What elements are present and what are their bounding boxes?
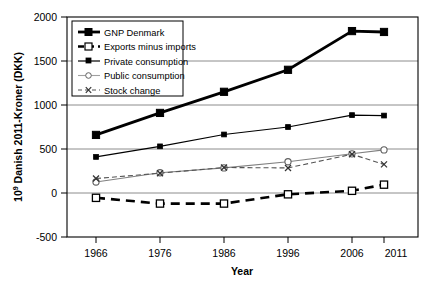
y-tick-label: 1000 <box>34 99 58 111</box>
x-tick-label: 2006 <box>340 247 364 259</box>
data-point-marker <box>348 27 355 34</box>
data-point-marker <box>222 132 227 137</box>
legend-label-stock-change: Stock change <box>104 86 160 96</box>
data-point-marker <box>158 144 163 149</box>
data-point-marker <box>94 155 99 160</box>
filled-dot-icon <box>86 58 91 63</box>
data-point-marker <box>284 191 291 198</box>
x-axis-tick-labels: 1966 1976 1986 1996 2006 2011 <box>84 247 407 259</box>
data-point-marker <box>92 131 99 138</box>
legend-label-private-consumption: Private consumption <box>104 57 188 67</box>
data-point-marker <box>284 66 291 73</box>
y-tick-label: -500 <box>36 231 57 243</box>
data-point-marker <box>92 194 99 201</box>
x-tick-label: 2011 <box>385 247 408 259</box>
open-square-icon <box>85 43 92 50</box>
y-tick-label: 0 <box>51 187 57 199</box>
open-circle-icon <box>86 73 92 79</box>
x-axis-title: Year <box>231 265 253 277</box>
x-tick-label: 1976 <box>148 247 172 259</box>
legend-label-gnp-denmark: GNP Denmark <box>104 28 165 38</box>
legend: GNP Denmark Exports minus imports Privat… <box>72 21 196 96</box>
x-axis-ticks <box>96 237 384 243</box>
data-point-marker <box>380 181 387 188</box>
data-point-marker <box>380 28 387 35</box>
data-point-marker <box>156 200 163 207</box>
legend-item-gnp-denmark[interactable]: GNP Denmark <box>78 28 165 38</box>
data-point-marker <box>285 159 291 165</box>
chart-container: 2000 1500 1000 500 0 -500 109 Danish 201… <box>0 0 432 281</box>
y-axis-ticks <box>61 17 67 237</box>
y-tick-label: 2000 <box>34 11 58 23</box>
x-tick-label: 1986 <box>212 247 236 259</box>
y-axis-tick-labels: 2000 1500 1000 500 0 -500 <box>34 11 58 243</box>
y-axis-title: 109 Danish 2011-Kroner (DKK) <box>12 52 24 202</box>
filled-square-icon <box>85 29 92 36</box>
data-point-marker <box>381 147 387 153</box>
data-point-marker <box>382 113 387 118</box>
data-point-marker <box>350 113 355 118</box>
data-point-marker <box>220 88 227 95</box>
y-axis-title-main: Danish 2011-Kroner (DKK) <box>12 52 24 186</box>
y-tick-label: 500 <box>39 143 57 155</box>
x-tick-label: 1996 <box>276 247 300 259</box>
y-tick-label: 1500 <box>34 55 58 67</box>
data-point-marker <box>220 200 227 207</box>
data-point-marker <box>348 187 355 194</box>
y-axis-title-prefix: 10 <box>12 190 24 202</box>
data-point-marker <box>286 125 291 130</box>
legend-label-exports-minus-imports: Exports minus imports <box>104 42 196 52</box>
x-tick-label: 1966 <box>84 247 108 259</box>
legend-label-public-consumption: Public consumption <box>104 71 185 81</box>
data-point-marker <box>156 109 163 116</box>
line-chart: 2000 1500 1000 500 0 -500 109 Danish 201… <box>0 0 432 281</box>
